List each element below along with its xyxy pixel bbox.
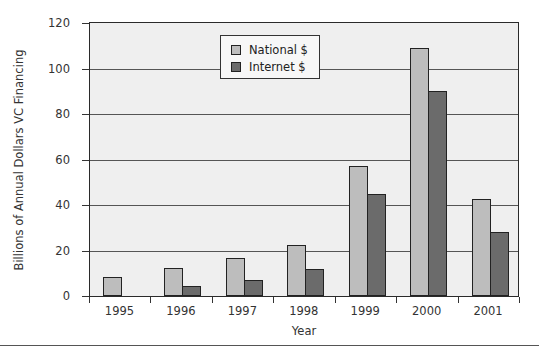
y-tick-mark — [82, 296, 89, 297]
gridline — [90, 114, 518, 115]
internet-bar-1999 — [367, 194, 386, 296]
y-tick-label: 0 — [30, 289, 70, 303]
national-bar-2000 — [410, 48, 429, 296]
national-bar-1999 — [349, 166, 368, 296]
national-bar-1998 — [287, 245, 306, 296]
x-axis-title: Year — [89, 324, 519, 338]
y-tick-label: 100 — [30, 62, 70, 76]
gridline — [90, 205, 518, 206]
legend-label-national: National $ — [249, 43, 308, 57]
x-tick-mark — [519, 297, 520, 303]
x-tick-mark — [458, 297, 459, 303]
x-tick-label: 1996 — [150, 304, 211, 318]
legend-item-national: National $ — [231, 43, 308, 57]
national-bar-1996 — [164, 268, 183, 296]
x-tick-mark — [89, 297, 90, 303]
x-tick-label: 2000 — [396, 304, 457, 318]
internet-bar-1998 — [305, 269, 324, 296]
x-tick-label: 1997 — [212, 304, 273, 318]
national-swatch-icon — [231, 45, 241, 55]
y-tick-mark — [82, 69, 89, 70]
y-tick-label: 120 — [30, 16, 70, 30]
y-tick-mark — [82, 205, 89, 206]
internet-bar-2000 — [428, 91, 447, 296]
plot-area: National $ Internet $ — [89, 22, 519, 297]
gridline — [90, 160, 518, 161]
internet-bar-2001 — [490, 232, 509, 296]
legend: National $ Internet $ — [220, 35, 320, 79]
x-tick-label: 1998 — [273, 304, 334, 318]
x-tick-label: 1999 — [335, 304, 396, 318]
y-tick-label: 60 — [30, 153, 70, 167]
bar-chart: Billions of Annual Dollars VC Financing … — [0, 0, 539, 357]
x-tick-mark — [212, 297, 213, 303]
internet-bar-1997 — [244, 280, 263, 296]
y-tick-label: 80 — [30, 107, 70, 121]
y-tick-mark — [82, 23, 89, 24]
x-tick-label: 2001 — [458, 304, 519, 318]
x-tick-mark — [150, 297, 151, 303]
y-tick-label: 40 — [30, 198, 70, 212]
y-tick-mark — [82, 251, 89, 252]
national-bar-1997 — [226, 258, 245, 296]
x-tick-mark — [273, 297, 274, 303]
bottom-divider — [0, 345, 539, 346]
x-tick-mark — [396, 297, 397, 303]
legend-label-internet: Internet $ — [249, 60, 306, 74]
legend-item-internet: Internet $ — [231, 60, 306, 74]
x-tick-mark — [335, 297, 336, 303]
national-bar-1995 — [103, 277, 122, 296]
y-axis-title-text: Billions of Annual Dollars VC Financing — [12, 50, 26, 271]
y-tick-mark — [82, 160, 89, 161]
y-tick-label: 20 — [30, 244, 70, 258]
y-tick-mark — [82, 114, 89, 115]
internet-swatch-icon — [231, 62, 241, 72]
internet-bar-1996 — [182, 286, 201, 296]
national-bar-2001 — [472, 199, 491, 296]
x-tick-label: 1995 — [89, 304, 150, 318]
